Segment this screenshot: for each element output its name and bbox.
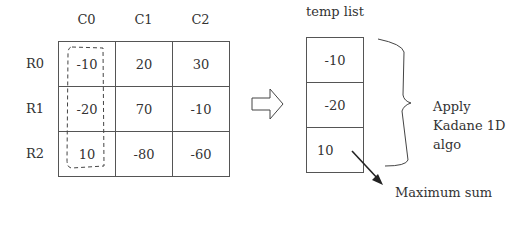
diagonal-arrow-icon — [352, 151, 383, 185]
brace-label-line: Kadane 1D — [433, 116, 505, 135]
brace-label-line: Apply — [433, 97, 505, 116]
hollow-right-arrow-icon — [252, 89, 283, 119]
column-highlight-dashed — [67, 47, 104, 168]
brace-label-line: algo — [433, 135, 505, 154]
maximum-sum-label: Maximum sum — [395, 183, 492, 202]
curly-brace-icon — [378, 39, 411, 166]
brace-label: Apply Kadane 1D algo — [433, 97, 505, 154]
